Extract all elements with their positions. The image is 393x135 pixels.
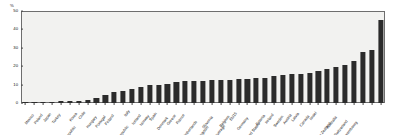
- x-axis-category-label: Finland: [104, 114, 115, 127]
- y-axis-tick-label: 40: [13, 27, 18, 31]
- bar-slot: [278, 11, 287, 103]
- bar: [325, 69, 330, 103]
- bar-slot: [136, 11, 145, 103]
- bar: [351, 61, 356, 104]
- bar: [271, 76, 276, 103]
- y-axis-tick-label: 10: [13, 82, 18, 86]
- bar-slot: [234, 11, 243, 103]
- y-axis-tick-label: 30: [13, 46, 18, 50]
- bar-slot: [163, 11, 172, 103]
- bar: [263, 78, 268, 103]
- bar-slot: [287, 11, 296, 103]
- bar-chart-figure: % 01020304050 MexicoPolandJapanTurkeySlo…: [0, 0, 393, 135]
- x-axis-category-label: Slovak Republic: [56, 125, 76, 135]
- x-axis-category-label: France: [175, 113, 186, 125]
- bar-slot: [305, 11, 314, 103]
- bar-slot: [190, 11, 199, 103]
- x-axis-category-label: Germany: [236, 116, 249, 131]
- bar-slot: [349, 11, 358, 103]
- bar: [280, 75, 285, 103]
- bar-slot: [101, 11, 110, 103]
- bar-slot: [261, 11, 270, 103]
- bar-slot: [92, 11, 101, 103]
- bar: [121, 91, 126, 103]
- bar: [174, 82, 179, 103]
- bar: [165, 84, 170, 103]
- y-axis-tick-label: 20: [13, 64, 18, 68]
- bar: [298, 74, 303, 103]
- x-axis-category-label: EU15: [229, 112, 238, 122]
- bar-slot: [332, 11, 341, 103]
- bar-slot: [243, 11, 252, 103]
- bar-slot: [207, 11, 216, 103]
- bar: [200, 81, 205, 103]
- bar-slot: [341, 11, 350, 103]
- bar-slot: [74, 11, 83, 103]
- bar-slot: [154, 11, 163, 103]
- bar: [147, 85, 152, 103]
- bar: [378, 20, 383, 103]
- bar-slot: [216, 11, 225, 103]
- bar-slot: [367, 11, 376, 103]
- bar: [360, 52, 365, 103]
- bar-slot: [21, 11, 30, 103]
- bar-slot: [48, 11, 57, 103]
- bar-slot: [39, 11, 48, 103]
- bar-slot: [323, 11, 332, 103]
- bar-slot: [314, 11, 323, 103]
- bar: [103, 95, 108, 103]
- bar-slot: [172, 11, 181, 103]
- x-axis-category-label: Spain: [149, 112, 158, 122]
- bar: [192, 81, 197, 103]
- bar: [138, 87, 143, 103]
- bar: [156, 85, 161, 103]
- bar-slot: [358, 11, 367, 103]
- bar: [209, 80, 214, 103]
- bar: [342, 65, 347, 103]
- bar: [227, 80, 232, 103]
- bar-slot: [65, 11, 74, 103]
- y-axis: 01020304050: [0, 11, 21, 103]
- bar: [334, 67, 339, 103]
- bar-slot: [57, 11, 66, 103]
- x-axis-category-label: Chile: [78, 111, 87, 121]
- bar-slot: [376, 11, 385, 103]
- x-axis-category-label: Turkey: [51, 113, 62, 125]
- bar-slot: [145, 11, 154, 103]
- bar-slot: [270, 11, 279, 103]
- x-axis-category-label: Italy: [123, 109, 131, 117]
- bar-series: [21, 11, 385, 103]
- bar-slot: [181, 11, 190, 103]
- bar: [183, 81, 188, 103]
- bar: [218, 80, 223, 103]
- bar-slot: [252, 11, 261, 103]
- bar: [307, 73, 312, 103]
- bar-slot: [30, 11, 39, 103]
- bar: [245, 79, 250, 103]
- bar-slot: [83, 11, 92, 103]
- x-axis-category-labels: MexicoPolandJapanTurkeySlovak RepublicKo…: [21, 104, 385, 135]
- bar: [112, 92, 117, 103]
- bar-slot: [199, 11, 208, 103]
- bar-slot: [110, 11, 119, 103]
- bar-slot: [128, 11, 137, 103]
- y-axis-tick-label: 50: [13, 9, 18, 13]
- x-axis-category-label: Netherlands: [182, 120, 198, 135]
- y-axis-tick-label: 0: [16, 101, 18, 105]
- bar: [236, 79, 241, 103]
- bar: [254, 78, 259, 103]
- x-axis-category-label: Czech Republic: [110, 125, 130, 135]
- x-axis-category-label: Israel: [309, 111, 318, 121]
- bar: [289, 74, 294, 103]
- bar: [129, 89, 134, 103]
- bar: [316, 71, 321, 103]
- bar: [369, 50, 374, 103]
- bar-slot: [119, 11, 128, 103]
- bar-slot: [296, 11, 305, 103]
- bar-slot: [225, 11, 234, 103]
